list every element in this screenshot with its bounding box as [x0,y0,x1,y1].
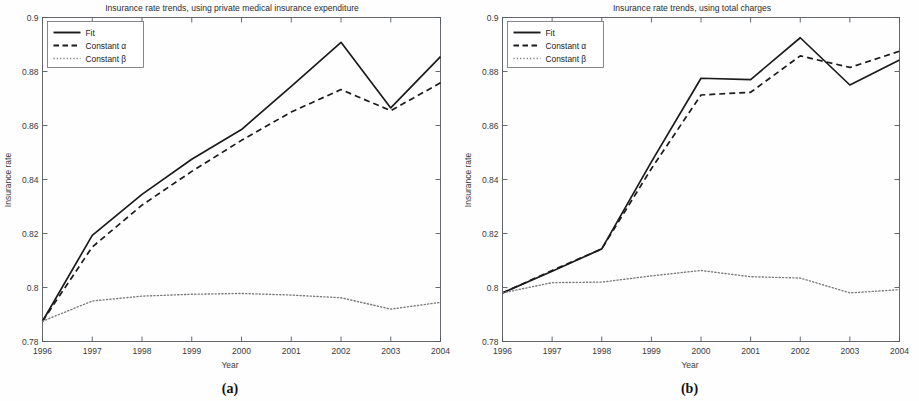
x-tick-label: 2001 [741,346,760,356]
legend-a: FitConstant αConstant β [48,22,144,68]
series-group-b [503,38,900,293]
y-tick-label: 0.9 [27,13,39,23]
x-tick-label: 1998 [133,346,152,356]
series-line-dotted [503,270,900,292]
x-tick-label: 1998 [592,346,611,356]
y-axis-title-a: Insurance rate [3,153,13,208]
chart-panel-b: Insurance rate trends, using total charg… [460,0,919,373]
y-tick-label: 0.8 [487,283,499,293]
legend-label: Fit [86,28,96,38]
y-axis-title-b: Insurance rate [463,153,473,208]
x-tick-label: 2001 [282,346,301,356]
x-axis-b: 199619971998199920002001200220032004 [493,18,909,356]
x-tick-label: 1999 [182,346,201,356]
legend-label: Constant α [86,41,127,51]
x-axis-title-a: Year [221,360,238,370]
chart-panel-a: Insurance rate trends, using private med… [0,0,460,373]
series-group-a [43,42,441,321]
legend-b: FitConstant αConstant β [508,22,604,68]
legend-label: Constant β [86,54,127,64]
x-axis-title-b: Year [681,360,698,370]
series-line-dotted [43,293,441,321]
x-tick-label: 1996 [33,346,52,356]
y-tick-label: 0.84 [482,175,499,185]
x-tick-label: 1999 [642,346,661,356]
legend-label: Constant α [546,41,587,51]
x-tick-label: 2004 [890,346,909,356]
x-tick-label: 2003 [381,346,400,356]
y-tick-label: 0.88 [22,67,39,77]
subfigure-caption-b: (b) [460,376,919,401]
series-line-solid [43,42,441,321]
legend-label: Fit [546,28,556,38]
chart-title-a: Insurance rate trends, using private med… [105,3,359,13]
x-tick-label: 2004 [431,346,450,356]
y-tick-label: 0.82 [22,229,39,239]
x-axis-a: 199619971998199920002001200220032004 [33,18,450,356]
y-tick-label: 0.9 [487,13,499,23]
series-line-dashed [43,83,441,321]
series-line-solid [503,38,900,293]
x-tick-label: 2002 [332,346,351,356]
chart-svg-a: Insurance rate trends, using private med… [0,0,460,373]
x-tick-label: 2000 [232,346,251,356]
x-tick-label: 1996 [493,346,512,356]
x-tick-label: 2002 [791,346,810,356]
x-tick-label: 2000 [692,346,711,356]
x-tick-label: 1997 [543,346,562,356]
chart-title-b: Insurance rate trends, using total charg… [613,3,771,13]
chart-svg-b: Insurance rate trends, using total charg… [460,0,919,373]
y-tick-label: 0.8 [27,283,39,293]
series-line-dashed [503,51,900,293]
subfigure-caption-a: (a) [0,376,460,401]
y-tick-label: 0.86 [22,121,39,131]
figure-container: Insurance rate trends, using private med… [0,0,919,401]
legend-label: Constant β [546,54,587,64]
y-tick-label: 0.86 [482,121,499,131]
x-tick-label: 1997 [83,346,102,356]
y-tick-label: 0.82 [482,229,499,239]
y-tick-label: 0.88 [482,67,499,77]
x-tick-label: 2003 [840,346,859,356]
y-tick-label: 0.84 [22,175,39,185]
